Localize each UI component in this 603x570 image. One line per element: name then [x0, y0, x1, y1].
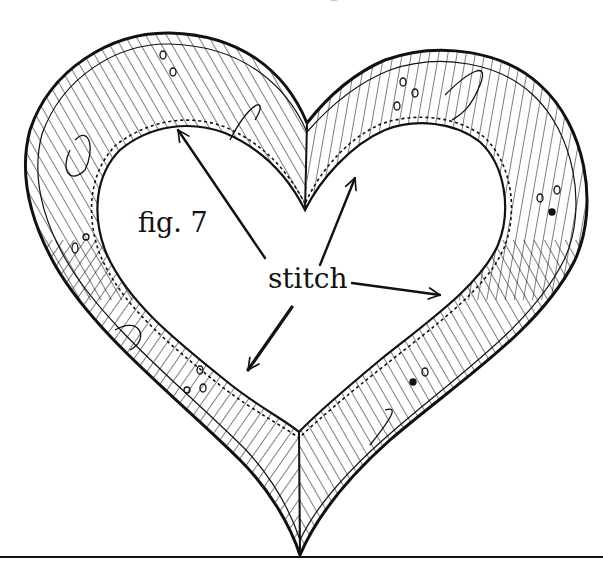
bottom-seam: [299, 432, 300, 555]
stitch-callout-label: stitch: [268, 265, 348, 293]
figure-caption: fig. 7: [138, 209, 208, 236]
